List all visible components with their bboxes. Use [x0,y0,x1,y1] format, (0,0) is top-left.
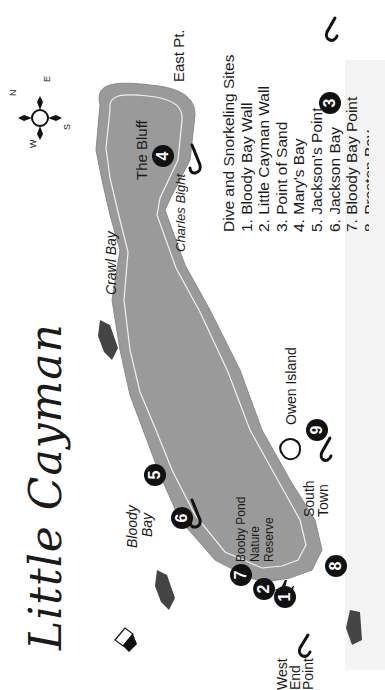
legend-item-3: 3. Point of Sand [273,55,291,233]
legend-item-1: 1. Bloody Bay Wall [238,55,256,233]
legend-heading: Dive and Snorkeling Sites [220,55,238,233]
compass-e: E [42,76,52,82]
dive-marker-4[interactable]: 4 [152,145,174,167]
label-booby-pond: Booby PondNatureReserve [234,497,276,562]
compass-rose-icon [18,96,62,140]
dive-marker-1[interactable]: 1 [274,586,296,608]
dive-marker-2[interactable]: 2 [253,578,275,600]
label-the-bluff: The Bluff [133,120,150,180]
dive-marker-6[interactable]: 6 [171,507,193,529]
label-west-end-point: WestEndPoint [276,658,315,690]
legend: Dive and Snorkeling Sites 1. Bloody Bay … [220,55,369,233]
dive-marker-7[interactable]: 7 [230,564,252,586]
compass-n: N [8,90,18,97]
label-owen-island: Owen Island [283,347,299,425]
dive-marker-9[interactable]: 9 [306,419,328,441]
dive-marker-5[interactable]: 5 [144,464,166,486]
label-crawl-bay: Crawl Bay [103,231,119,295]
legend-item-7: 7. Bloody Bay Point [343,55,361,233]
label-charles-bight: Charles Bight [173,174,188,252]
label-bloody-bay: BloodyBay [125,505,155,548]
legend-item-5: 5. Jackson's Point [308,55,326,233]
compass-w: W [28,140,38,149]
label-east-pt: East Pt. [170,29,187,82]
compass-s: S [62,124,72,130]
legend-item-4: 4. Mary's Bay [290,55,308,233]
legend-item-8: 8. Preston Bay [361,55,369,233]
legend-item-6: 6. Jackson Bay [326,55,344,233]
dive-marker-8[interactable]: 8 [325,555,347,577]
label-south-town: SouthTown [302,480,330,517]
lighthouse-icon [115,628,137,652]
map-title: Little Cayman [20,323,71,650]
legend-item-2: 2. Little Cayman Wall [255,55,273,233]
